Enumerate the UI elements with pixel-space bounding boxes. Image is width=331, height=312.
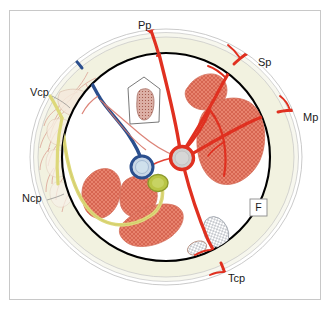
label-ncp: Ncp — [22, 192, 42, 204]
label-pp: Pp — [138, 19, 151, 31]
cross-section-diagram: Pp Sp Mp Tcp Ncp Vcp F — [0, 0, 331, 312]
label-sp: Sp — [258, 56, 271, 68]
label-mp: Mp — [303, 111, 318, 123]
label-tcp: Tcp — [228, 272, 245, 284]
vein-exit — [50, 42, 82, 68]
f-label-box: F — [250, 199, 267, 216]
label-vcp: Vcp — [30, 86, 49, 98]
f-box-text: F — [255, 201, 261, 213]
figure-root: Pp Sp Mp Tcp Ncp Vcp F — [0, 0, 331, 312]
